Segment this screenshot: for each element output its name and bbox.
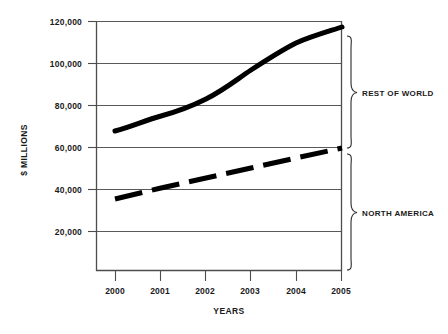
x-tick-label-2000: 2000 (105, 286, 125, 296)
y-tick-marks (88, 22, 96, 232)
y-tick-label-120000: 120,000 (14, 17, 82, 27)
x-tick-label-2004: 2004 (286, 286, 306, 296)
series-line-rest-of-world (115, 27, 342, 131)
x-tick-label-2002: 2002 (195, 286, 215, 296)
annotation-label-rest-of-world: REST OF WORLD (362, 89, 434, 98)
y-tick-label-100000: 100,000 (14, 59, 82, 69)
axis-lines (96, 21, 342, 271)
brace-rest-of-world (347, 36, 357, 148)
x-tick-label-2003: 2003 (240, 286, 260, 296)
annotation-label-north-america: NORTH AMERICA (362, 209, 434, 218)
x-axis-title: YEARS (213, 306, 244, 316)
y-tick-label-40000: 40,000 (14, 185, 82, 195)
x-tick-label-2005: 2005 (331, 286, 351, 296)
series-line-north-america (115, 148, 342, 199)
y-axis-title: $ MILLIONS (19, 124, 29, 176)
brace-north-america (347, 154, 357, 270)
x-tick-marks (116, 271, 342, 281)
x-tick-label-2001: 2001 (150, 286, 170, 296)
chart-graphic (0, 0, 448, 334)
y-tick-label-80000: 80,000 (14, 101, 82, 111)
chart-container: 120,000 100,000 80,000 60,000 40,000 20,… (0, 0, 448, 334)
y-tick-label-20000: 20,000 (14, 227, 82, 237)
